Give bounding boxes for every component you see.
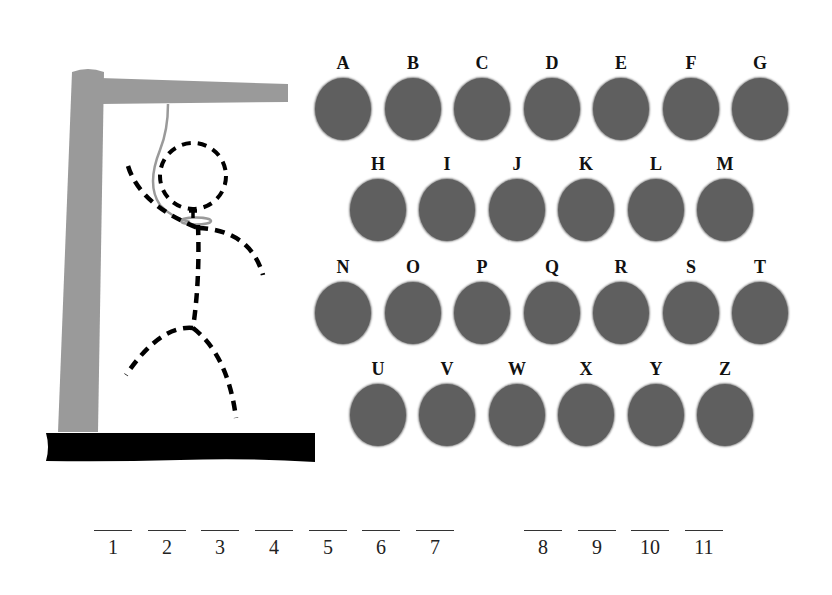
key-button[interactable] xyxy=(732,78,788,140)
key-letter: D xyxy=(523,52,581,74)
key-letter: L xyxy=(627,153,685,175)
key-a[interactable]: A xyxy=(314,52,372,140)
key-button[interactable] xyxy=(419,179,475,241)
figure-body xyxy=(193,225,198,328)
key-k[interactable]: K xyxy=(557,153,615,241)
gallows-beam xyxy=(100,78,288,104)
key-z[interactable]: Z xyxy=(696,358,754,446)
key-i[interactable]: I xyxy=(418,153,476,241)
figure-left-leg xyxy=(126,328,193,375)
blank-line xyxy=(94,530,132,531)
slot-number: 6 xyxy=(362,537,400,557)
key-x[interactable]: X xyxy=(557,358,615,446)
key-letter: H xyxy=(349,153,407,175)
key-h[interactable]: H xyxy=(349,153,407,241)
key-button[interactable] xyxy=(628,384,684,446)
key-button[interactable] xyxy=(732,282,788,344)
letter-slot-1: 1 xyxy=(94,530,132,557)
key-letter: K xyxy=(557,153,615,175)
key-s[interactable]: S xyxy=(662,256,720,344)
key-g[interactable]: G xyxy=(731,52,789,140)
blank-line xyxy=(148,530,186,531)
key-button[interactable] xyxy=(558,179,614,241)
key-letter: J xyxy=(488,153,546,175)
key-letter: Y xyxy=(627,358,685,380)
key-c[interactable]: C xyxy=(453,52,511,140)
slot-number: 10 xyxy=(631,537,669,557)
key-button[interactable] xyxy=(628,179,684,241)
key-p[interactable]: P xyxy=(453,256,511,344)
key-e[interactable]: E xyxy=(592,52,650,140)
key-letter: X xyxy=(557,358,615,380)
key-button[interactable] xyxy=(697,384,753,446)
key-button[interactable] xyxy=(489,179,545,241)
key-v[interactable]: V xyxy=(418,358,476,446)
key-n[interactable]: N xyxy=(314,256,372,344)
key-b[interactable]: B xyxy=(384,52,442,140)
key-button[interactable] xyxy=(454,282,510,344)
key-l[interactable]: L xyxy=(627,153,685,241)
gallows-base xyxy=(46,433,315,462)
key-letter: O xyxy=(384,256,442,278)
key-o[interactable]: O xyxy=(384,256,442,344)
key-letter: C xyxy=(453,52,511,74)
blank-line xyxy=(416,530,454,531)
key-button[interactable] xyxy=(558,384,614,446)
key-y[interactable]: Y xyxy=(627,358,685,446)
key-button[interactable] xyxy=(350,179,406,241)
slot-number: 3 xyxy=(201,537,239,557)
key-f[interactable]: F xyxy=(662,52,720,140)
key-button[interactable] xyxy=(593,282,649,344)
key-button[interactable] xyxy=(350,384,406,446)
blank-line xyxy=(685,530,723,531)
key-letter: Z xyxy=(696,358,754,380)
gallows-post xyxy=(58,69,104,432)
key-button[interactable] xyxy=(593,78,649,140)
slot-number: 8 xyxy=(524,537,562,557)
blank-line xyxy=(524,530,562,531)
key-letter: Q xyxy=(523,256,581,278)
key-u[interactable]: U xyxy=(349,358,407,446)
key-button[interactable] xyxy=(663,78,719,140)
key-d[interactable]: D xyxy=(523,52,581,140)
key-letter: W xyxy=(488,358,546,380)
key-t[interactable]: T xyxy=(731,256,789,344)
slot-number: 2 xyxy=(148,537,186,557)
blank-line xyxy=(362,530,400,531)
key-button[interactable] xyxy=(419,384,475,446)
key-r[interactable]: R xyxy=(592,256,650,344)
slot-number: 9 xyxy=(578,537,616,557)
key-button[interactable] xyxy=(315,78,371,140)
key-button[interactable] xyxy=(385,78,441,140)
letter-slot-8: 8 xyxy=(524,530,562,557)
slot-number: 7 xyxy=(416,537,454,557)
key-q[interactable]: Q xyxy=(523,256,581,344)
figure-right-leg xyxy=(193,328,236,418)
letter-slot-10: 10 xyxy=(631,530,669,557)
key-button[interactable] xyxy=(524,78,580,140)
key-button[interactable] xyxy=(385,282,441,344)
slot-number: 1 xyxy=(94,537,132,557)
key-j[interactable]: J xyxy=(488,153,546,241)
key-button[interactable] xyxy=(489,384,545,446)
key-button[interactable] xyxy=(454,78,510,140)
key-letter: S xyxy=(662,256,720,278)
key-button[interactable] xyxy=(697,179,753,241)
slot-number: 5 xyxy=(309,537,347,557)
key-letter: M xyxy=(696,153,754,175)
key-letter: T xyxy=(731,256,789,278)
key-button[interactable] xyxy=(315,282,371,344)
key-letter: R xyxy=(592,256,650,278)
blank-line xyxy=(578,530,616,531)
key-letter: G xyxy=(731,52,789,74)
blank-line xyxy=(201,530,239,531)
key-w[interactable]: W xyxy=(488,358,546,446)
letter-slot-3: 3 xyxy=(201,530,239,557)
rope xyxy=(153,104,190,222)
key-button[interactable] xyxy=(663,282,719,344)
slot-number: 4 xyxy=(255,537,293,557)
key-letter: F xyxy=(662,52,720,74)
letter-slot-7: 7 xyxy=(416,530,454,557)
key-m[interactable]: M xyxy=(696,153,754,241)
key-button[interactable] xyxy=(524,282,580,344)
